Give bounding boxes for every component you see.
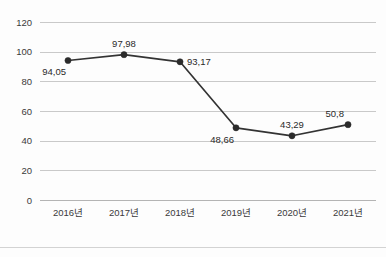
x-tick-label: 2017년 [109,207,139,218]
data-point-label: 43,29 [280,119,304,130]
data-point-label: 97,98 [112,38,136,49]
y-tick-label: 0 [27,195,32,206]
data-point-marker [121,52,127,58]
x-tick-label: 2020년 [277,207,307,218]
series-line-group [68,55,348,136]
y-tick-label: 120 [16,17,32,28]
series-line [68,55,348,136]
x-tick-label: 2018년 [165,207,195,218]
data-point-labels: 94,0597,9893,1748,6643,2950,8 [42,38,344,145]
data-point-marker [233,125,239,131]
data-point-label: 93,17 [187,56,211,67]
x-tick-label: 2019년 [221,207,251,218]
data-point-label: 50,8 [326,108,345,119]
x-tick-label: 2021년 [333,207,363,218]
data-point-marker [177,59,183,65]
y-tick-label: 100 [16,46,32,57]
footer-divider [0,247,386,248]
chart-container: 020406080100120 2016년2017년2018년2019년2020… [0,0,386,257]
data-point-marker [345,122,351,128]
data-point-label: 48,66 [210,134,234,145]
y-tick-label: 60 [21,106,32,117]
x-tick-label: 2016년 [53,207,83,218]
data-point-label: 94,05 [42,66,66,77]
y-tick-label: 20 [21,165,32,176]
data-point-marker [65,57,71,63]
data-point-marker [289,133,295,139]
line-chart: 020406080100120 2016년2017년2018년2019년2020… [0,0,386,257]
y-axis-tick-labels: 020406080100120 [16,17,32,206]
y-tick-label: 80 [21,76,32,87]
x-axis-tick-labels: 2016년2017년2018년2019년2020년2021년 [53,207,363,218]
y-tick-label: 40 [21,135,32,146]
